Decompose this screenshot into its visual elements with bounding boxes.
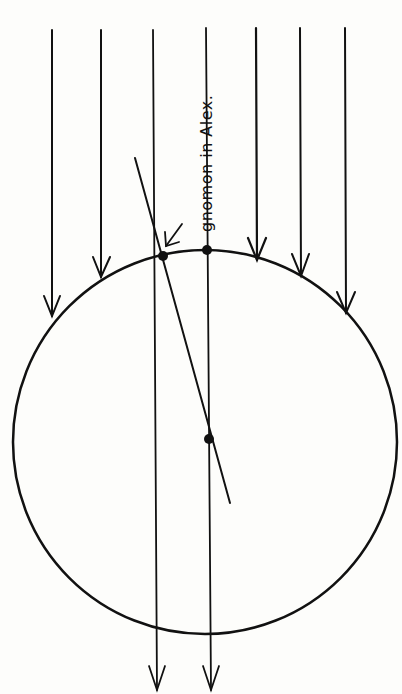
label-pointer-arrow <box>165 224 182 246</box>
eratosthenes-diagram: gnomon in Alex. <box>0 0 402 694</box>
sun-ray <box>44 30 60 316</box>
earth-center-point <box>204 434 214 444</box>
sun-ray <box>292 28 309 276</box>
gnomon-label: gnomon in Alex. <box>197 95 216 232</box>
sun-ray <box>337 28 355 313</box>
sun-ray <box>248 28 266 260</box>
sun-ray <box>93 30 110 277</box>
alexandria-point <box>158 251 168 261</box>
sun-ray <box>149 30 165 690</box>
syene-point <box>202 245 212 255</box>
